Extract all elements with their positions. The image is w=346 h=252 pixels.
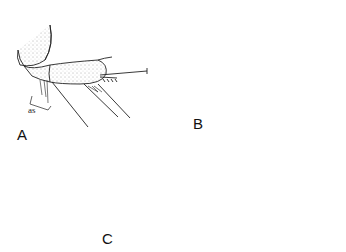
panel-label-c: C [102, 230, 113, 247]
panel-label-a: A [17, 126, 27, 143]
panel-a-drawing [17, 25, 147, 127]
figure-drawing [0, 0, 346, 252]
annotation-as: as [28, 105, 36, 115]
panel-label-b: B [193, 115, 203, 132]
